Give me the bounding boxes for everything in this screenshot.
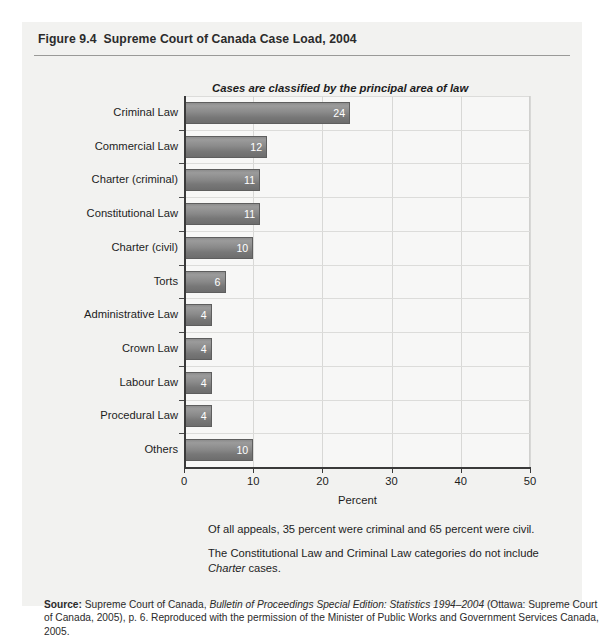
bar-value-label: 10 — [184, 439, 253, 461]
category-label: Criminal Law — [48, 106, 178, 118]
gridline-horizontal — [184, 197, 530, 198]
x-axis-tick — [530, 468, 531, 473]
bar-value-label: 24 — [184, 102, 350, 124]
category-label: Commercial Law — [48, 140, 178, 152]
x-axis-line — [184, 467, 531, 469]
figure-container: Figure 9.4 Supreme Court of Canada Case … — [22, 22, 582, 606]
y-axis-tick — [179, 130, 184, 131]
source-pre: Supreme Court of Canada, — [85, 599, 210, 610]
bar-value-label: 4 — [184, 304, 212, 326]
x-tick-label: 0 — [164, 475, 204, 487]
chart-subtitle: Cases are classified by the principal ar… — [212, 82, 468, 94]
category-label: Charter (criminal) — [48, 173, 178, 185]
gridline-horizontal — [184, 265, 530, 266]
y-axis-tick — [179, 366, 184, 367]
y-axis-tick — [179, 197, 184, 198]
gridline-horizontal — [184, 400, 530, 401]
note-italic-term: Charter — [208, 562, 245, 574]
gridline-horizontal — [184, 231, 530, 232]
y-axis-line — [184, 96, 186, 468]
bar-value-label: 4 — [184, 405, 212, 427]
bar-value-label: 4 — [184, 338, 212, 360]
bar-value-label: 11 — [184, 169, 260, 191]
gridline-horizontal — [184, 163, 530, 164]
x-tick-label: 20 — [302, 475, 342, 487]
gridline-vertical — [392, 96, 393, 467]
gridline-vertical — [461, 96, 462, 467]
x-axis-tick — [322, 468, 323, 473]
y-axis-tick — [179, 400, 184, 401]
gridline-horizontal — [184, 130, 530, 131]
source-post: (Ottawa: — [484, 599, 525, 610]
y-axis-tick — [179, 231, 184, 232]
note-line: The Constitutional Law and Criminal Law … — [208, 546, 563, 576]
bar-value-label: 6 — [184, 271, 226, 293]
gridline-vertical — [530, 96, 531, 467]
category-label: Constitutional Law — [48, 207, 178, 219]
gridline-horizontal — [184, 332, 530, 333]
gridline-vertical — [322, 96, 323, 467]
x-tick-label: 40 — [441, 475, 481, 487]
gridline-horizontal — [184, 298, 530, 299]
x-axis-title: Percent — [184, 494, 531, 506]
y-axis-tick — [179, 163, 184, 164]
category-label: Others — [48, 443, 178, 455]
chart-notes: Of all appeals, 35 percent were criminal… — [208, 522, 563, 585]
source-publication-title: Bulletin of Proceedings Special Edition:… — [209, 599, 484, 610]
note-text-part: cases. — [245, 562, 280, 574]
source-label: Source: — [44, 599, 82, 610]
category-label: Labour Law — [48, 376, 178, 388]
source-text: Supreme Court of Canada, Bulletin of Pro… — [44, 599, 599, 637]
bar-value-label: 4 — [184, 372, 212, 394]
x-tick-label: 50 — [510, 475, 550, 487]
category-label: Crown Law — [48, 342, 178, 354]
category-label: Torts — [48, 275, 178, 287]
bar-value-label: 12 — [184, 136, 267, 158]
x-axis-tick — [461, 468, 462, 473]
bar-value-label: 10 — [184, 237, 253, 259]
x-axis-tick — [253, 468, 254, 473]
category-label: Administrative Law — [48, 308, 178, 320]
source-block: Source: Supreme Court of Canada, Bulleti… — [44, 598, 604, 638]
y-axis-tick — [179, 265, 184, 266]
y-axis-tick — [179, 298, 184, 299]
category-label: Charter (civil) — [48, 241, 178, 253]
category-labels: Criminal LawCommercial LawCharter (crimi… — [44, 96, 178, 467]
note-line: Of all appeals, 35 percent were criminal… — [208, 522, 563, 537]
figure-title-text: Supreme Court of Canada Case Load, 2004 — [104, 32, 357, 46]
y-axis-tick — [179, 332, 184, 333]
gridline-horizontal — [184, 366, 530, 367]
category-label: Procedural Law — [48, 409, 178, 421]
title-divider — [34, 55, 570, 56]
x-tick-label: 30 — [372, 475, 412, 487]
bar-value-label: 11 — [184, 203, 260, 225]
note-text-part: The Constitutional Law and Criminal Law … — [208, 547, 539, 559]
x-tick-label: 10 — [233, 475, 273, 487]
plot-top-edge — [184, 96, 530, 97]
gridline-horizontal — [184, 433, 530, 434]
x-axis-tick — [392, 468, 393, 473]
plot-area: 24121111106444410 — [184, 96, 530, 467]
figure-title: Figure 9.4 Supreme Court of Canada Case … — [38, 32, 357, 46]
y-axis-tick — [179, 433, 184, 434]
figure-number: Figure 9.4 — [38, 32, 97, 46]
x-axis-tick — [184, 468, 185, 473]
